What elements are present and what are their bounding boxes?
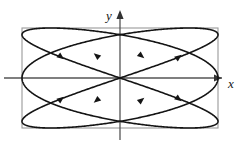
x-axis-label: x	[227, 76, 234, 91]
figure-canvas: x y	[0, 0, 248, 147]
figure-background	[0, 0, 248, 147]
lissajous-figure: x y	[0, 0, 248, 147]
y-axis-label: y	[104, 8, 112, 23]
